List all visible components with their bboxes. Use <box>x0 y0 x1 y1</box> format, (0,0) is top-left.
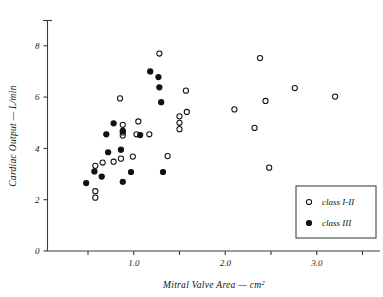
y-axis-title: Cardiac Output — L/min <box>8 85 18 187</box>
x-tick-label-1.0: 1.0 <box>128 258 140 268</box>
data-point <box>84 180 89 185</box>
legend-box <box>296 186 376 238</box>
legend-marker-class-i-ii <box>306 199 311 204</box>
data-point <box>130 154 135 159</box>
data-point <box>157 51 162 56</box>
legend-label-class-i-ii: class I-II <box>322 197 355 207</box>
data-point <box>136 119 141 124</box>
y-axis-ticks: 02468 <box>35 41 48 256</box>
data-point <box>160 169 165 174</box>
legend: class I-II class III <box>296 186 376 238</box>
data-point <box>156 74 161 79</box>
data-point <box>183 88 188 93</box>
legend-label-class-iii: class III <box>322 218 352 228</box>
y-tick-label-6: 6 <box>35 92 40 102</box>
data-point <box>117 96 122 101</box>
data-point <box>257 56 262 61</box>
data-point <box>157 85 162 90</box>
data-point <box>177 114 182 119</box>
data-point <box>148 69 153 74</box>
data-point <box>138 132 143 137</box>
x-axis-ticks: 1.02.03.0 <box>88 251 363 268</box>
data-point <box>128 169 133 174</box>
data-point <box>159 100 164 105</box>
legend-marker-class-iii <box>306 220 311 225</box>
series-class-i-ii <box>93 51 338 200</box>
chart-figure: 02468 1.02.03.0 Mitral Valve Area — cm2 … <box>0 0 383 297</box>
y-tick-label-4: 4 <box>35 144 40 154</box>
data-point <box>252 125 257 130</box>
data-point <box>332 94 337 99</box>
data-point <box>99 174 104 179</box>
x-tick-label-2.0: 2.0 <box>220 258 232 268</box>
data-point <box>177 120 182 125</box>
data-point <box>165 153 170 158</box>
data-point <box>232 107 237 112</box>
data-point <box>93 163 98 168</box>
data-point <box>120 122 125 127</box>
data-point <box>292 86 297 91</box>
data-point <box>267 165 272 170</box>
data-point <box>106 150 111 155</box>
data-point <box>104 132 109 137</box>
data-point <box>111 159 116 164</box>
data-point <box>93 195 98 200</box>
data-point <box>111 121 116 126</box>
data-point <box>184 109 189 114</box>
data-point <box>118 156 123 161</box>
y-tick-label-8: 8 <box>35 41 40 51</box>
x-tick-label-3.0: 3.0 <box>310 258 323 268</box>
data-point <box>93 189 98 194</box>
data-point <box>147 132 152 137</box>
data-point <box>92 169 97 174</box>
scatter-plot: 02468 1.02.03.0 Mitral Valve Area — cm2 … <box>0 0 383 297</box>
y-tick-label-2: 2 <box>35 195 40 205</box>
data-point <box>120 179 125 184</box>
data-point <box>120 128 125 133</box>
x-axis-title: Mitral Valve Area — cm2 <box>162 279 265 290</box>
data-point <box>118 147 123 152</box>
y-tick-label-0: 0 <box>35 246 40 256</box>
data-point <box>177 127 182 132</box>
data-point <box>263 98 268 103</box>
data-point <box>100 160 105 165</box>
